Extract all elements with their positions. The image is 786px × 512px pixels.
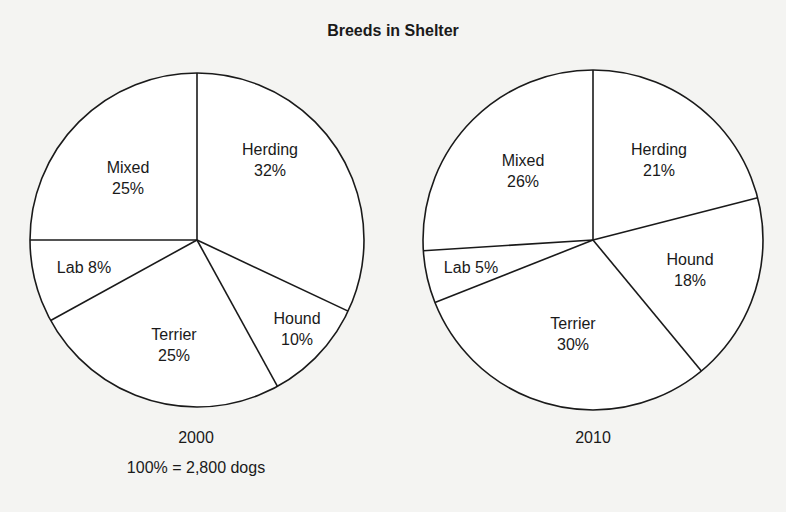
slice-label-2000-terrier: Terrier25% bbox=[151, 324, 196, 366]
slice-label-2010-herding: Herding21% bbox=[631, 139, 687, 181]
slice-label-2000-herding: Herding32% bbox=[242, 139, 298, 181]
pie-2000 bbox=[30, 73, 364, 407]
slice-label-2010-hound: Hound18% bbox=[666, 249, 713, 291]
year-label-2010: 2010 bbox=[575, 429, 611, 447]
slice-label-2010-lab: Lab 5% bbox=[444, 257, 498, 278]
slice-label-2000-mixed: Mixed25% bbox=[107, 157, 150, 199]
slice-label-2010-mixed: Mixed26% bbox=[502, 150, 545, 192]
pie-2010 bbox=[423, 70, 763, 410]
slice-label-2000-hound: Hound10% bbox=[273, 308, 320, 350]
total-note-2000: 100% = 2,800 dogs bbox=[127, 459, 265, 477]
year-label-2000: 2000 bbox=[178, 429, 214, 447]
slice-label-2010-terrier: Terrier30% bbox=[550, 313, 595, 355]
slice-label-2000-lab: Lab 8% bbox=[57, 257, 111, 278]
